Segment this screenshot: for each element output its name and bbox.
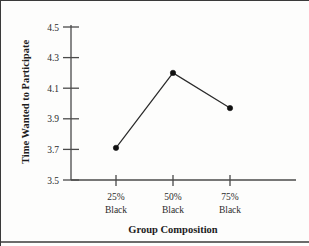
x-category-label-top: 75% <box>221 192 239 202</box>
data-point <box>170 70 175 75</box>
data-point <box>113 145 118 150</box>
figure-container: 4.5 4.3 4.1 3.9 3.7 3.5 25% Black 50% Bl… <box>0 0 309 246</box>
y-tick-label: 4.5 <box>47 23 59 33</box>
x-category-label-bottom: Black <box>162 205 184 215</box>
y-tick-label: 4.3 <box>47 53 59 63</box>
x-category-label-bottom: Black <box>219 205 241 215</box>
y-tick-label: 4.1 <box>47 84 59 94</box>
series-line <box>116 73 230 148</box>
y-axis-title: Time Wanted to Participate <box>20 40 31 164</box>
x-category-label-top: 25% <box>107 192 125 202</box>
x-category-label-bottom: Black <box>105 205 127 215</box>
data-point <box>227 105 232 110</box>
line-chart: 4.5 4.3 4.1 3.9 3.7 3.5 25% Black 50% Bl… <box>1 1 309 246</box>
x-axis-title: Group Composition <box>128 224 218 235</box>
x-category-label-top: 50% <box>164 192 182 202</box>
y-tick-label: 3.7 <box>47 145 59 155</box>
series-markers <box>113 70 232 150</box>
y-tick-label: 3.5 <box>47 176 59 186</box>
y-tick-label: 3.9 <box>47 114 59 124</box>
